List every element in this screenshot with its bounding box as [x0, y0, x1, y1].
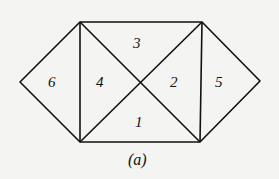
region-label-3: 3: [132, 35, 141, 51]
region-label-1: 1: [135, 114, 143, 130]
region-label-2: 2: [170, 74, 178, 90]
region-label-5: 5: [215, 74, 223, 90]
right-vertical-edge: [200, 22, 202, 142]
region-label-4: 4: [96, 74, 104, 90]
region-label-6: 6: [48, 74, 56, 90]
figure-caption: (a): [128, 151, 147, 169]
triangulated-hexagon-diagram: 1 2 3 4 5 6 (a): [0, 0, 279, 179]
